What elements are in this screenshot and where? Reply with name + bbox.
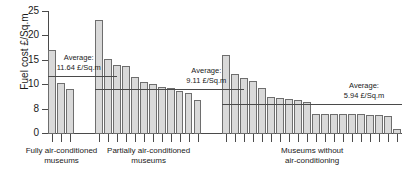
x-axis-tick <box>361 134 362 142</box>
category-label-line1: Partially air-conditioned <box>79 146 219 156</box>
x-axis-tick <box>289 134 290 142</box>
x-axis-tick <box>144 134 145 142</box>
average-annotation-line2: 5.94 £/Sq.m <box>328 91 400 101</box>
average-annotation-line2: 9.11 £/Sq.m <box>170 76 242 86</box>
average-line <box>222 104 402 105</box>
x-axis-tick <box>52 134 53 142</box>
x-axis-tick <box>316 134 317 142</box>
y-axis-tick-label: 20 <box>28 29 39 40</box>
category-label-line2: museums <box>79 156 219 166</box>
x-axis-tick <box>189 134 190 142</box>
bar <box>303 102 311 134</box>
y-axis-tick: 20 <box>42 35 49 36</box>
x-axis-tick <box>343 134 344 142</box>
bar <box>339 114 347 134</box>
x-axis-tick <box>135 134 136 142</box>
average-line <box>95 89 245 90</box>
x-axis-tick <box>307 134 308 142</box>
x-axis-tick <box>117 134 118 142</box>
x-axis-tick <box>180 134 181 142</box>
y-axis-tick-label: 8 <box>33 103 39 114</box>
x-axis-tick <box>108 134 109 142</box>
bar <box>312 114 320 134</box>
x-axis-tick <box>198 134 199 142</box>
bar <box>249 81 257 134</box>
bar <box>375 115 383 134</box>
x-axis-tick <box>253 134 254 142</box>
bar <box>330 114 338 134</box>
x-axis-tick <box>334 134 335 142</box>
bar <box>258 88 266 134</box>
y-axis-tick-label: 10 <box>28 78 39 89</box>
average-annotation-line1: Average: <box>328 81 400 91</box>
x-axis-tick <box>271 134 272 142</box>
bar <box>140 82 148 134</box>
x-axis-tick <box>99 134 100 142</box>
bar <box>348 114 356 134</box>
bar <box>131 77 139 134</box>
bar <box>267 97 275 134</box>
x-axis-tick <box>235 134 236 142</box>
x-axis-tick <box>370 134 371 142</box>
fuel-cost-bar-chart: Fuel cost £/Sq.m 0810152025 Average:11.6… <box>0 0 406 177</box>
y-axis-tick-label: 25 <box>28 5 39 16</box>
x-axis-tick <box>171 134 172 142</box>
bar <box>384 116 392 134</box>
x-axis-tick <box>153 134 154 142</box>
bar <box>149 84 157 134</box>
bar <box>185 93 193 134</box>
x-axis-tick <box>298 134 299 142</box>
x-axis-tick <box>280 134 281 142</box>
bar <box>66 89 74 134</box>
y-axis-tick-label: 0 <box>33 127 39 138</box>
bar <box>167 88 175 134</box>
x-axis-tick <box>379 134 380 142</box>
bar <box>357 114 365 134</box>
x-axis-tick <box>126 134 127 142</box>
bar <box>366 115 374 134</box>
average-annotation-line1: Average: <box>43 53 115 63</box>
x-axis-tick <box>61 134 62 142</box>
y-axis-tick: 25 <box>42 11 49 12</box>
average-annotation: Average:5.94 £/Sq.m <box>328 81 400 101</box>
bar <box>321 114 329 134</box>
y-axis-tick-label: 15 <box>28 54 39 65</box>
category-label: Partially air-conditionedmuseums <box>79 146 219 167</box>
x-axis-tick <box>388 134 389 142</box>
bar <box>122 66 130 134</box>
x-axis-tick <box>325 134 326 142</box>
average-annotation: Average:9.11 £/Sq.m <box>170 66 242 86</box>
x-axis-tick <box>226 134 227 142</box>
bar <box>240 78 248 134</box>
x-axis-tick <box>162 134 163 142</box>
bar <box>176 91 184 134</box>
bar <box>194 100 202 134</box>
category-label: Museums withoutair-conditioning <box>242 146 382 167</box>
x-axis-tick <box>262 134 263 142</box>
x-axis-tick <box>397 134 398 142</box>
x-axis-tick <box>244 134 245 142</box>
category-label-line1: Museums without <box>242 146 382 156</box>
bar <box>294 100 302 134</box>
average-annotation-line2: 11.64 £/Sq.m <box>43 63 115 73</box>
bar <box>57 83 65 134</box>
x-axis-tick <box>352 134 353 142</box>
average-annotation: Average:11.64 £/Sq.m <box>43 53 115 73</box>
x-axis-tick <box>70 134 71 142</box>
average-annotation-line1: Average: <box>170 66 242 76</box>
category-label-line2: air-conditioning <box>242 156 382 166</box>
bar <box>158 87 166 134</box>
average-line <box>48 76 117 77</box>
bar <box>113 65 121 134</box>
